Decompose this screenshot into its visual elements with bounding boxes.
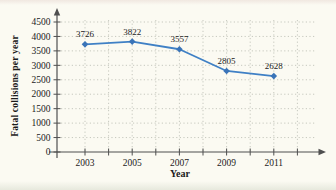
point-label-2003: 3726 [76, 29, 95, 39]
x-axis-arrow-icon [319, 149, 327, 155]
y-tick-label-0: 0 [46, 147, 51, 157]
data-point-marker-2007 [176, 46, 183, 53]
x-tick-label-2005: 2005 [123, 158, 142, 168]
fatal-collisions-line-chart-figure: 0500100015002000250030003500400045002003… [0, 0, 336, 190]
data-point-marker-2009 [223, 68, 230, 75]
data-point-marker-2011 [271, 73, 278, 80]
y-tick-label-1000: 1000 [32, 118, 51, 128]
point-label-2005: 3822 [123, 27, 141, 37]
x-tick-label-2007: 2007 [170, 158, 189, 168]
line-chart-canvas: 0500100015002000250030003500400045002003… [0, 0, 336, 190]
y-tick-label-4500: 4500 [32, 17, 51, 27]
y-tick-label-2500: 2500 [32, 75, 51, 85]
point-label-2007: 3557 [170, 34, 189, 44]
y-tick-label-3500: 3500 [32, 46, 51, 56]
data-point-marker-2005 [129, 38, 136, 45]
x-tick-label-2003: 2003 [76, 158, 95, 168]
x-axis-title: Year [170, 168, 190, 179]
x-tick-label-2009: 2009 [217, 158, 236, 168]
y-axis-title: Fatal collisions per year [10, 35, 20, 137]
data-point-marker-2003 [82, 41, 89, 48]
y-tick-label-500: 500 [36, 133, 51, 143]
point-label-2011: 2628 [265, 61, 284, 71]
y-tick-label-3000: 3000 [32, 61, 51, 71]
point-label-2009: 2805 [218, 56, 237, 66]
x-tick-label-2011: 2011 [264, 158, 283, 168]
y-axis-arrow-icon [54, 8, 60, 16]
y-tick-label-4000: 4000 [32, 32, 51, 42]
y-tick-label-1500: 1500 [32, 104, 51, 114]
y-tick-label-2000: 2000 [32, 89, 51, 99]
